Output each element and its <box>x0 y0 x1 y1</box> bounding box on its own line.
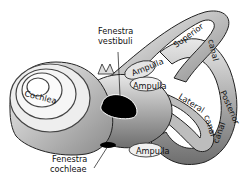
label-ampulla-middle: Ampulla <box>133 81 167 91</box>
label-fenestra-vestibuli-line2: vestibuli <box>98 36 133 46</box>
diagram-svg: Cochlea Fenestra vestibuli Ampulla Ampul… <box>0 0 250 184</box>
label-fenestra-cochleae-line2: cochleae <box>50 164 87 174</box>
fenestra-cochleae-window <box>100 142 116 148</box>
stapes-projection <box>98 64 114 74</box>
inner-ear-diagram: Cochlea Fenestra vestibuli Ampulla Ampul… <box>0 0 250 184</box>
label-fenestra-vestibuli-line1: Fenestra <box>98 26 133 36</box>
label-ampulla-lower: Ampulla <box>136 146 170 156</box>
label-fenestra-cochleae-line1: Fenestra <box>52 154 87 164</box>
